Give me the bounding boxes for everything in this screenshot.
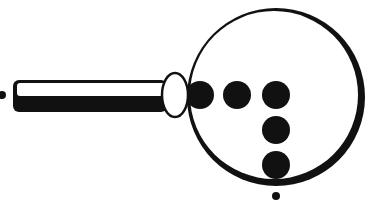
bottom-dot	[272, 192, 280, 200]
handle	[13, 80, 167, 112]
magnifying-glass-illustration	[0, 0, 384, 207]
dot-1	[186, 81, 214, 109]
dot-2	[223, 81, 251, 109]
dot-4	[262, 116, 290, 144]
collar	[162, 73, 188, 117]
dot-3	[262, 81, 290, 109]
end-dot	[0, 91, 6, 99]
dot-5	[262, 151, 290, 179]
